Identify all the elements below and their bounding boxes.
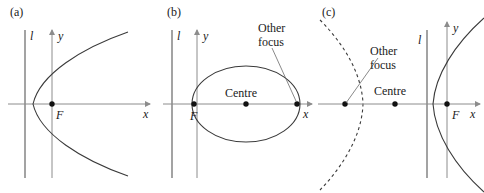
focus-label-a: F: [55, 108, 64, 122]
panel-c: l x y Other focus Centre F: [318, 18, 484, 192]
directrix-label-c: l: [418, 33, 422, 47]
centre-label-c: Centre: [374, 84, 406, 98]
conics-figure: (a) (b) (c) l x y F l x y: [0, 0, 484, 193]
centre-point-b: [243, 101, 248, 106]
panel-a: l x y F: [8, 29, 150, 178]
directrix-label-a: l: [30, 29, 34, 43]
other-focus-point-b: [294, 101, 299, 106]
panel-b: l x y F Centre Other focus: [163, 21, 312, 178]
centre-label-b: Centre: [225, 86, 257, 100]
x-axis-label-b: x: [302, 107, 309, 121]
focus-label-b: F: [189, 109, 198, 123]
centre-point-c: [392, 101, 397, 106]
y-axis-label-a: y: [57, 29, 64, 43]
other-focus-label-line2-c: focus: [370, 58, 396, 72]
x-axis-label-c: x: [469, 107, 476, 121]
y-axis-label-c: y: [452, 21, 459, 35]
y-axis-label-b: y: [202, 29, 209, 43]
other-focus-leader-b: [272, 48, 296, 101]
hyperbola-solid-branch-c: [433, 18, 484, 192]
focus-label-c: F: [451, 108, 460, 122]
directrix-label-b: l: [177, 29, 181, 43]
other-focus-label-line1-b: Other: [258, 21, 285, 35]
focus-point-a: [49, 101, 54, 106]
other-focus-label-line2-b: focus: [258, 35, 284, 49]
hyperbola-dashed-branch-c: [320, 20, 363, 190]
focus-point-b: [191, 101, 196, 106]
other-focus-label-line1-c: Other: [370, 44, 397, 58]
x-axis-label-a: x: [142, 107, 149, 121]
focus-point-c: [444, 101, 449, 106]
